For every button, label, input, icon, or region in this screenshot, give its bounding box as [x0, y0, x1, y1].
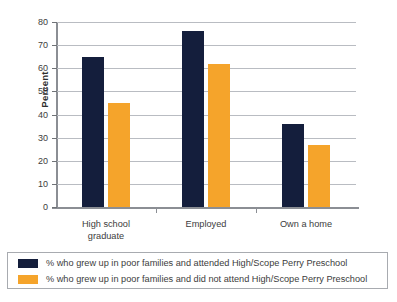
y-tick-label: 10: [38, 179, 48, 189]
bar: [108, 103, 130, 207]
y-tick-mark: [52, 22, 57, 23]
y-tick-mark: [52, 161, 57, 162]
bar: [182, 31, 204, 207]
plot-area: 01020304050607080 High schoolgraduateEmp…: [56, 22, 356, 207]
y-tick-label: 50: [38, 86, 48, 96]
y-tick-label: 30: [38, 133, 48, 143]
legend-swatch-icon: [18, 275, 38, 284]
bar: [308, 145, 330, 207]
bar: [282, 124, 304, 207]
y-tick-mark: [52, 115, 57, 116]
legend-item: % who grew up in poor families and atten…: [18, 255, 387, 271]
x-tick-label: Employed: [156, 218, 256, 230]
bar: [82, 57, 104, 207]
x-tick-label: High school: [56, 218, 156, 230]
x-group-label: Own a home: [256, 218, 356, 230]
y-tick-label: 80: [38, 17, 48, 27]
y-tick-label: 20: [38, 156, 48, 166]
y-tick-label: 40: [38, 110, 48, 120]
legend-swatch-icon: [18, 259, 38, 268]
bar-chart: Percent 01020304050607080 High schoolgra…: [0, 0, 397, 245]
legend-label: % who grew up in poor families and did n…: [46, 274, 367, 284]
x-group-label: Employed: [156, 218, 256, 230]
y-tick-label: 60: [38, 63, 48, 73]
legend-label: % who grew up in poor families and atten…: [46, 258, 347, 268]
y-tick-mark: [52, 207, 57, 208]
chart-legend: % who grew up in poor families and atten…: [7, 252, 388, 289]
x-divider-tick: [256, 208, 257, 213]
x-divider-tick: [156, 208, 157, 213]
x-tick-label: graduate: [56, 230, 156, 242]
y-tick-mark: [52, 91, 57, 92]
y-tick-label: 70: [38, 40, 48, 50]
legend-item: % who grew up in poor families and did n…: [18, 271, 387, 287]
gridline: [56, 45, 356, 46]
bar: [208, 64, 230, 207]
y-tick-mark: [52, 184, 57, 185]
gridline: [56, 22, 356, 23]
y-tick-mark: [52, 68, 57, 69]
gridline: [56, 207, 356, 208]
y-tick-label: 0: [43, 202, 48, 212]
y-tick-mark: [52, 138, 57, 139]
y-tick-mark: [52, 45, 57, 46]
x-tick-label: Own a home: [256, 218, 356, 230]
x-group-label: High schoolgraduate: [56, 218, 156, 242]
